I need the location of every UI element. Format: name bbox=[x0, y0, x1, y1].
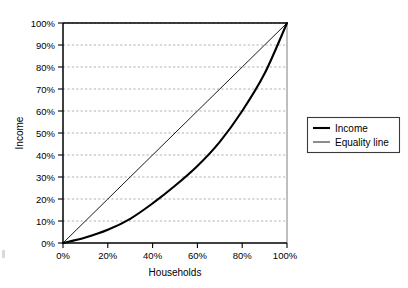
y-tick-label-70: 70% bbox=[36, 84, 56, 95]
legend-label-equality-line: Equality line bbox=[335, 137, 389, 148]
y-tick-labels: 100% 90% 80% 70% 60% 50% 40% 30% 20% 10%… bbox=[31, 18, 56, 249]
y-tick-label-10: 10% bbox=[36, 216, 56, 227]
chart-canvas: 100% 90% 80% 70% 60% 50% 40% 30% 20% 10%… bbox=[0, 0, 408, 288]
y-tick-label-90: 90% bbox=[36, 40, 56, 51]
x-axis-title: Households bbox=[149, 267, 202, 278]
y-tick-label-40: 40% bbox=[36, 150, 56, 161]
y-tick-label-100: 100% bbox=[31, 18, 56, 29]
y-tick-label-20: 20% bbox=[36, 194, 56, 205]
y-tick-label-80: 80% bbox=[36, 62, 56, 73]
gridlines-group bbox=[63, 23, 287, 221]
y-tick-label-50: 50% bbox=[36, 128, 56, 139]
y-tick-label-60: 60% bbox=[36, 106, 56, 117]
y-axis-title: Income bbox=[14, 116, 25, 149]
lorenz-curve-chart: 100% 90% 80% 70% 60% 50% 40% 30% 20% 10%… bbox=[0, 0, 408, 288]
scan-artifact bbox=[2, 250, 5, 258]
chart-legend[interactable]: Income Equality line bbox=[308, 118, 400, 153]
legend-label-income: Income bbox=[335, 123, 368, 134]
x-tick-label-0: 0% bbox=[56, 250, 70, 261]
x-tick-label-60: 60% bbox=[188, 250, 208, 261]
y-tick-label-0: 0% bbox=[41, 238, 55, 249]
x-tick-labels: 0% 20% 40% 60% 80% 100% bbox=[56, 250, 298, 261]
x-tick-label-40: 40% bbox=[143, 250, 163, 261]
x-tick-label-20: 20% bbox=[98, 250, 118, 261]
x-tick-label-80: 80% bbox=[233, 250, 253, 261]
y-tick-label-30: 30% bbox=[36, 172, 56, 183]
x-tick-label-100: 100% bbox=[273, 250, 298, 261]
